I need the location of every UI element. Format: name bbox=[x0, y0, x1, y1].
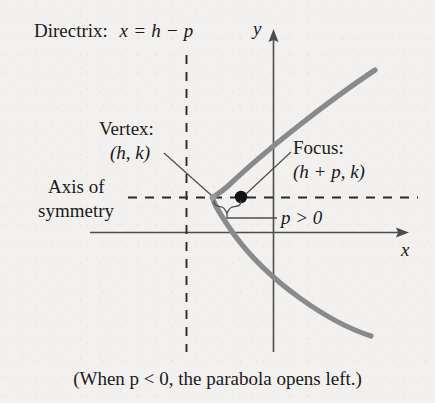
figure-caption: (When p < 0, the parabola opens left.) bbox=[0, 368, 435, 390]
parabola-figure: Directrix: x = h − p y x Vertex: (h, k) … bbox=[0, 0, 435, 403]
y-axis-label: y bbox=[253, 18, 261, 40]
axis-of-symmetry-label: Axis of symmetry bbox=[38, 175, 114, 224]
focal-distance-leader-line bbox=[227, 213, 277, 218]
directrix-label: Directrix: x = h − p bbox=[34, 20, 194, 42]
focus-leader-line bbox=[246, 152, 291, 194]
focus-label-line1: Focus: bbox=[293, 136, 365, 160]
vertex-label: Vertex: (h, k) bbox=[99, 117, 154, 166]
vertex-label-line1: Vertex: bbox=[99, 117, 154, 141]
axis-of-symmetry-label-line1: Axis of bbox=[38, 175, 114, 199]
x-axis-label: x bbox=[401, 239, 409, 261]
vertex-label-line2: (h, k) bbox=[99, 141, 154, 165]
directrix-label-prefix: Directrix: bbox=[34, 20, 108, 41]
directrix-label-equation: x = h − p bbox=[120, 20, 194, 41]
x-axis bbox=[90, 228, 409, 238]
y-axis bbox=[269, 29, 279, 352]
axis-of-symmetry-label-line2: symmetry bbox=[38, 199, 114, 223]
focus-label: Focus: (h + p, k) bbox=[293, 136, 365, 185]
focus-label-line2: (h + p, k) bbox=[293, 160, 365, 184]
vertex-leader-line bbox=[164, 153, 211, 195]
parabola-curve bbox=[213, 70, 375, 336]
focal-distance-label: p > 0 bbox=[281, 207, 322, 229]
